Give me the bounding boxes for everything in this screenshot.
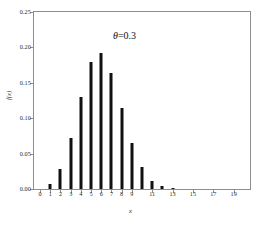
theta-annotation: θ=0.3: [113, 31, 136, 41]
bar: [161, 186, 164, 189]
x-axis-tick-label: 5: [90, 191, 93, 197]
x-axis-tick-label: 11: [149, 191, 155, 197]
x-axis-tick-label: 17: [210, 191, 216, 197]
bar: [100, 53, 103, 189]
y-axis-title: f(x): [5, 91, 12, 100]
x-axis-tick-label: 8: [120, 191, 123, 197]
y-axis-tick-label: 0.10: [20, 115, 31, 121]
x-axis-tick-label: 13: [169, 191, 175, 197]
bar: [69, 138, 72, 189]
x-axis-tick-label: 6: [100, 191, 103, 197]
theta-value: =0.3: [118, 30, 136, 41]
binomial-distribution-chart: 0.000.050.100.150.200.25 012345678911131…: [0, 0, 261, 229]
y-axis-tick-label: 0.15: [20, 80, 31, 86]
y-axis-tick-label: 0.00: [20, 186, 31, 192]
bar: [130, 143, 133, 189]
x-axis-tick-label: 19: [231, 191, 237, 197]
bar: [110, 73, 113, 189]
bar: [141, 167, 144, 189]
x-axis-tick-label: 0: [39, 191, 42, 197]
y-axis-tick-label: 0.25: [20, 9, 31, 15]
y-axis-tick-label: 0.05: [20, 150, 31, 156]
bar: [90, 62, 93, 189]
bar: [151, 181, 154, 189]
bar: [120, 108, 123, 189]
x-axis-tick-label: 15: [190, 191, 196, 197]
y-axis-tick-label: 0.20: [20, 44, 31, 50]
x-axis-tick-label: 2: [59, 191, 62, 197]
x-axis-tick-label: 1: [49, 191, 52, 197]
x-axis-tick-label: 3: [69, 191, 72, 197]
plot-area: 0.000.050.100.150.200.25 012345678911131…: [34, 12, 250, 189]
bar: [79, 97, 82, 189]
x-axis-tick-label: 9: [130, 191, 133, 197]
x-axis-tick-label: 7: [110, 191, 113, 197]
x-axis-tick-label: 4: [79, 191, 82, 197]
bar: [59, 169, 62, 189]
x-axis-title: x: [0, 207, 261, 214]
